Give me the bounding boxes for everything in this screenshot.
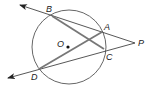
label-a: A <box>103 22 110 32</box>
label-d: D <box>31 72 38 82</box>
diagram-canvas: B A C D P O <box>0 0 153 88</box>
label-p: P <box>138 38 144 48</box>
center-point-o <box>66 45 69 48</box>
chord-da <box>39 32 102 69</box>
secant-pd-line <box>8 43 135 78</box>
label-b: B <box>46 4 52 14</box>
label-c: C <box>106 52 113 62</box>
circle-secant-diagram: B A C D P O <box>0 0 153 88</box>
label-o: O <box>57 39 64 49</box>
